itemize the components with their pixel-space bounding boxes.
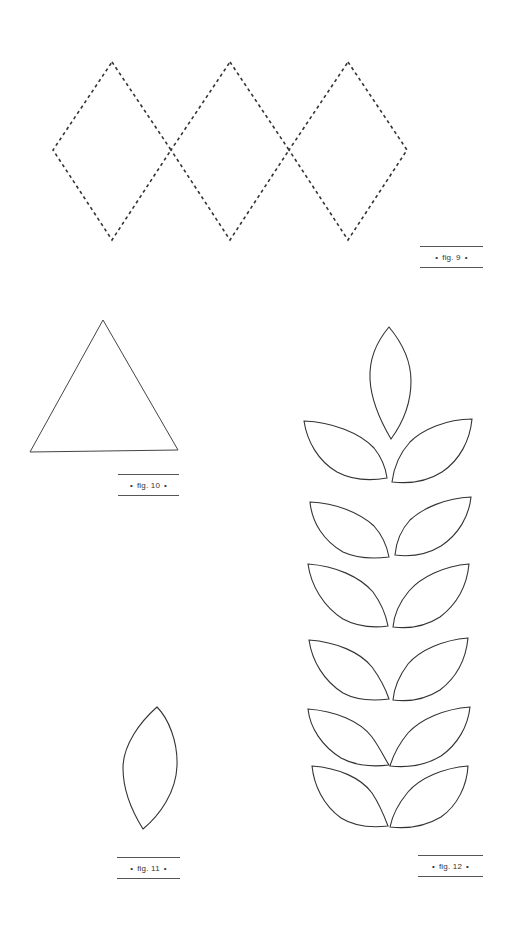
diamond-3 — [289, 62, 407, 240]
bullet-left: • — [130, 481, 133, 490]
leaf-pair5-left — [308, 709, 389, 766]
fig11-caption-text: fig. 11 — [137, 864, 160, 873]
diamond-2 — [171, 62, 289, 240]
bullet-left: • — [432, 862, 435, 871]
leaf-pair3-right — [393, 564, 469, 628]
fig10-triangle — [30, 320, 178, 452]
template-page: • fig. 9 • • fig. 10 • • fig. 11 • • fig… — [0, 0, 516, 929]
leaf-pair3-left — [308, 564, 388, 627]
fig11-leaf — [123, 707, 177, 829]
fig11-caption: • fig. 11 • — [117, 857, 180, 879]
leaf-pair4-left — [309, 640, 389, 700]
leaf-pair5-right — [390, 707, 470, 767]
leaf-pair1-left — [304, 421, 387, 480]
fig12-caption-text: fig. 12 — [439, 862, 462, 871]
fig12-caption: • fig. 12 • — [418, 855, 483, 877]
bullet-left: • — [130, 864, 133, 873]
fig9-caption: • fig. 9 • — [420, 246, 483, 268]
diamond-1 — [53, 62, 171, 240]
fig9-dashed-diamonds — [53, 62, 407, 240]
leaf-pair2-left — [310, 502, 389, 558]
bullet-right: • — [164, 864, 167, 873]
bullet-right: • — [466, 862, 469, 871]
leaf-pair1-right — [392, 419, 472, 483]
fig10-caption-text: fig. 10 — [137, 481, 160, 490]
bullet-right: • — [465, 253, 468, 262]
fig12-leaf-branch — [304, 327, 472, 828]
top-leaf — [370, 327, 411, 439]
fig9-caption-text: fig. 9 — [442, 253, 461, 262]
leaf-pair6-left — [312, 766, 388, 827]
leaf-pair6-right — [390, 766, 468, 828]
leaf-pair2-right — [395, 497, 471, 556]
figures-canvas — [0, 0, 516, 929]
bullet-left: • — [435, 253, 438, 262]
fig10-caption: • fig. 10 • — [118, 474, 179, 496]
leaf-pair4-right — [393, 638, 468, 701]
bullet-right: • — [164, 481, 167, 490]
